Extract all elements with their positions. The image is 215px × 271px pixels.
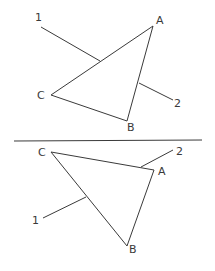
leader-label-2: 2 — [176, 145, 183, 158]
triangle-outline — [51, 152, 154, 246]
bottom-triangle-figure: A B C 2 1 — [32, 145, 183, 256]
leader-line-2 — [139, 83, 173, 100]
leader-label-1: 1 — [35, 11, 42, 24]
vertex-label-b: B — [127, 121, 135, 134]
vertex-label-c: C — [37, 89, 45, 102]
leader-line-1 — [41, 27, 100, 61]
vertex-label-a: A — [156, 14, 164, 27]
leader-label-1: 1 — [32, 214, 39, 227]
diagram-canvas: A B C 1 2 A B C 2 1 — [0, 0, 215, 271]
leader-label-2: 2 — [174, 97, 181, 110]
leader-line-1 — [43, 197, 86, 218]
triangle-diagram: A B C 1 2 A B C 2 1 — [0, 0, 215, 271]
vertex-label-c: C — [38, 146, 46, 159]
vertex-label-a: A — [158, 165, 166, 178]
separator-line — [14, 140, 202, 141]
triangle-outline — [51, 26, 153, 121]
top-triangle-figure: A B C 1 2 — [35, 11, 181, 134]
leader-line-2 — [141, 150, 173, 167]
vertex-label-b: B — [129, 243, 137, 256]
